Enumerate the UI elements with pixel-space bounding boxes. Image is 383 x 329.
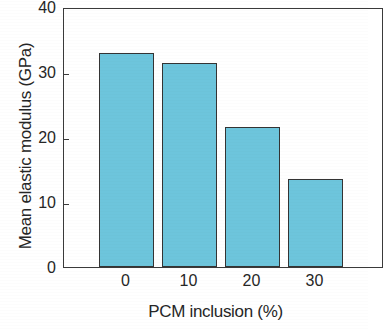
y-tick-mark-10 <box>64 204 69 205</box>
bar-0 <box>99 53 154 268</box>
x-tick-label-10: 10 <box>169 272 209 290</box>
bar-20 <box>225 127 280 267</box>
y-tick-label-0: 0 <box>12 260 56 276</box>
x-tick-label-0: 0 <box>106 272 146 290</box>
plot-inner-area <box>64 9 382 267</box>
y-tick-label-30: 30 <box>12 65 56 81</box>
x-tick-label-20: 20 <box>232 272 272 290</box>
x-axis-title: PCM inclusion (%) <box>63 302 368 322</box>
plot-frame <box>63 8 383 268</box>
y-tick-label-40: 40 <box>12 0 56 16</box>
y-tick-label-20: 20 <box>12 130 56 146</box>
bar-10 <box>162 63 217 267</box>
y-tick-label-10: 10 <box>12 195 56 211</box>
bar-30 <box>288 179 343 267</box>
x-tick-label-30: 30 <box>295 272 335 290</box>
y-axis-title: Mean elastic modulus (GPa) <box>14 16 38 276</box>
y-tick-mark-30 <box>64 74 69 75</box>
y-tick-mark-20 <box>64 139 69 140</box>
